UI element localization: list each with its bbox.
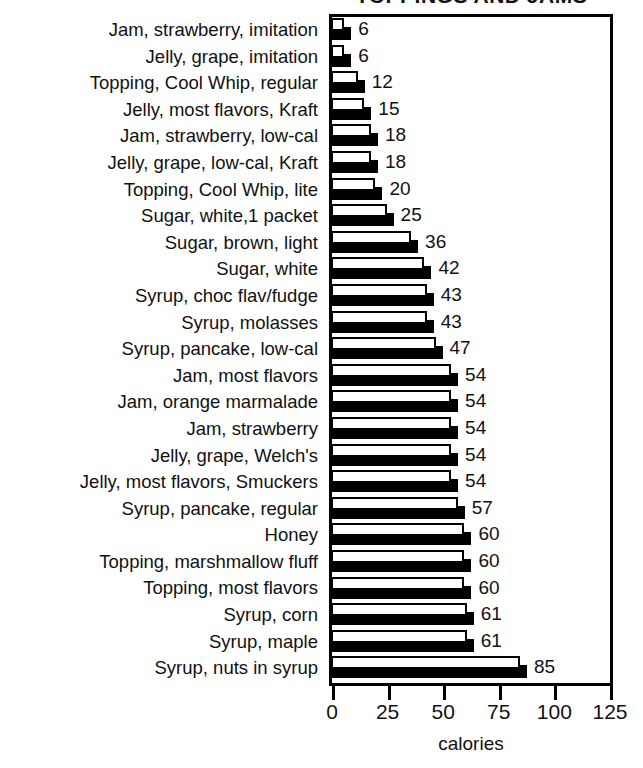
bar xyxy=(331,364,451,377)
x-axis-tick xyxy=(610,686,613,700)
category-label: Jam, orange marmalade xyxy=(0,389,324,416)
bar-value-label: 47 xyxy=(450,335,471,362)
category-label: Jelly, most flavors, Smuckers xyxy=(0,469,324,496)
bar-value-label: 54 xyxy=(465,388,486,415)
bar-row: 57 xyxy=(332,496,610,523)
bar-value-label: 43 xyxy=(441,282,462,309)
category-label: Jam, most flavors xyxy=(0,363,324,390)
x-axis-tick xyxy=(332,686,335,700)
bar xyxy=(331,311,427,324)
bar-row: 60 xyxy=(332,522,610,549)
bar-value-label: 20 xyxy=(389,176,410,203)
bar xyxy=(331,497,458,510)
bar-row: 6 xyxy=(332,44,610,71)
bar-row: 60 xyxy=(332,549,610,576)
bar xyxy=(331,71,358,84)
bar-row: 60 xyxy=(332,576,610,603)
bar xyxy=(331,523,464,536)
category-label: Syrup, corn xyxy=(0,602,324,629)
category-label: Jelly, most flavors, Kraft xyxy=(0,97,324,124)
category-label: Jelly, grape, low-cal, Kraft xyxy=(0,150,324,177)
bar-row: 25 xyxy=(332,203,610,230)
chart-title: TOPPINGS AND JAMS xyxy=(330,0,613,8)
category-label: Jelly, grape, Welch's xyxy=(0,443,324,470)
category-label: Sugar, white,1 packet xyxy=(0,203,324,230)
bar-value-label: 57 xyxy=(472,495,493,522)
x-axis-tick-label: 75 xyxy=(487,700,510,724)
bar xyxy=(331,630,467,643)
bar xyxy=(331,390,451,403)
x-axis xyxy=(329,686,613,700)
category-label: Honey xyxy=(0,522,324,549)
bar-value-label: 6 xyxy=(358,16,369,43)
bar-value-label: 43 xyxy=(441,309,462,336)
x-axis-tick-label: 0 xyxy=(326,700,338,724)
bar-value-label: 60 xyxy=(478,548,499,575)
bar xyxy=(331,337,436,350)
bar-value-label: 36 xyxy=(425,229,446,256)
bar-row: 43 xyxy=(332,310,610,337)
category-label: Syrup, pancake, regular xyxy=(0,496,324,523)
bar-row: 47 xyxy=(332,336,610,363)
bar-row: 61 xyxy=(332,602,610,629)
bar-row: 54 xyxy=(332,389,610,416)
bar-row: 54 xyxy=(332,416,610,443)
bar-value-label: 61 xyxy=(481,601,502,628)
bar-row: 36 xyxy=(332,230,610,257)
bar-value-label: 25 xyxy=(401,202,422,229)
category-label: Sugar, white xyxy=(0,256,324,283)
category-axis-labels: Jam, strawberry, imitationJelly, grape, … xyxy=(0,17,324,682)
bar-row: 85 xyxy=(332,655,610,682)
bar-value-label: 85 xyxy=(534,654,555,681)
bar-value-label: 54 xyxy=(465,442,486,469)
bar-value-label: 60 xyxy=(478,521,499,548)
category-label: Jam, strawberry xyxy=(0,416,324,443)
category-label: Syrup, molasses xyxy=(0,310,324,337)
bar-value-label: 60 xyxy=(478,575,499,602)
bar-value-label: 61 xyxy=(481,628,502,655)
bar xyxy=(331,284,427,297)
bar-row: 61 xyxy=(332,629,610,656)
x-axis-tick xyxy=(499,686,502,700)
bar-row: 54 xyxy=(332,469,610,496)
x-axis-tick xyxy=(443,686,446,700)
category-label: Jam, strawberry, imitation xyxy=(0,17,324,44)
bar xyxy=(331,124,371,137)
bar-row: 42 xyxy=(332,256,610,283)
bar-row: 54 xyxy=(332,363,610,390)
bar xyxy=(331,98,364,111)
bars-layer: 6612151818202536424343475454545454576060… xyxy=(332,17,610,683)
bar xyxy=(331,444,451,457)
bar-row: 6 xyxy=(332,17,610,44)
category-label: Jelly, grape, imitation xyxy=(0,44,324,71)
category-label: Syrup, pancake, low-cal xyxy=(0,336,324,363)
bar xyxy=(331,257,424,270)
x-axis-tick xyxy=(388,686,391,700)
bar xyxy=(331,470,451,483)
bar xyxy=(331,603,467,616)
bar-row: 18 xyxy=(332,123,610,150)
bar-row: 12 xyxy=(332,70,610,97)
bar-value-label: 18 xyxy=(385,122,406,149)
bar xyxy=(331,204,387,217)
category-label: Jam, strawberry, low-cal xyxy=(0,123,324,150)
category-label: Topping, Cool Whip, regular xyxy=(0,70,324,97)
bar-row: 18 xyxy=(332,150,610,177)
bar-value-label: 54 xyxy=(465,362,486,389)
bar-value-label: 15 xyxy=(378,96,399,123)
category-label: Topping, most flavors xyxy=(0,575,324,602)
bar-row: 54 xyxy=(332,443,610,470)
bar-value-label: 12 xyxy=(372,69,393,96)
category-label: Syrup, maple xyxy=(0,629,324,656)
x-axis-tick-label: 100 xyxy=(537,700,572,724)
bar xyxy=(331,577,464,590)
category-label: Syrup, choc flav/fudge xyxy=(0,283,324,310)
bar-value-label: 54 xyxy=(465,415,486,442)
bar-row: 15 xyxy=(332,97,610,124)
x-axis-title: calories xyxy=(329,733,613,755)
x-axis-tick-label: 125 xyxy=(592,700,627,724)
bar xyxy=(331,151,371,164)
category-label: Sugar, brown, light xyxy=(0,230,324,257)
x-axis-tick-label: 25 xyxy=(376,700,399,724)
bar-value-label: 42 xyxy=(438,255,459,282)
